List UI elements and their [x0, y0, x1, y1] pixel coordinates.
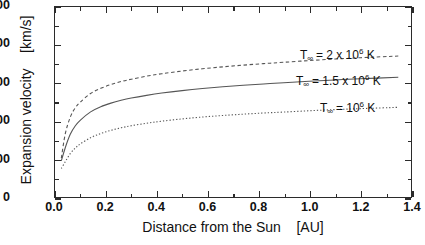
ann-mid-unit: K — [369, 74, 380, 88]
y-axis-title: Expansion velocity [km/s] — [18, 0, 34, 200]
x-minor-tick-top — [182, 7, 183, 11]
ann-bot-unit: K — [364, 101, 375, 115]
curve-t-1e6 — [61, 107, 398, 168]
y-major-tick-right — [405, 6, 411, 7]
x-major-tick — [259, 191, 260, 197]
x-minor-tick — [285, 194, 286, 198]
y-minor-tick — [55, 26, 59, 27]
x-minor-tick-top — [233, 7, 234, 11]
y-major-tick — [55, 45, 61, 46]
y-minor-tick — [55, 64, 59, 65]
y-major-tick — [55, 160, 61, 161]
annotation-t-1e6: T∞ = 106 K — [320, 100, 375, 116]
y-minor-tick — [55, 102, 59, 103]
y-major-tick-right — [405, 122, 411, 123]
x-tick-label: 0.6 — [184, 200, 230, 214]
y-minor-tick-right — [408, 141, 412, 142]
y-major-tick — [55, 122, 61, 123]
x-tick-label: 0.2 — [82, 200, 128, 214]
x-minor-tick — [80, 194, 81, 198]
y-tick-label: 1000 — [0, 0, 10, 12]
x-minor-tick — [233, 194, 234, 198]
y-tick-label: 600 — [0, 75, 10, 89]
ann-bot-mid: = 10 — [333, 101, 360, 115]
x-major-tick — [208, 191, 209, 197]
y-minor-tick — [55, 179, 59, 180]
x-minor-tick-top — [285, 7, 286, 11]
x-major-tick — [310, 191, 311, 197]
x-axis-title: Distance from the Sun [AU] — [54, 219, 412, 235]
x-minor-tick-top — [131, 7, 132, 11]
x-minor-tick — [182, 194, 183, 198]
annotation-t-2e6: T∞ = 2 x 106 K — [300, 47, 375, 63]
y-major-tick-right — [405, 160, 411, 161]
ann-mid-mid: = 1.5 x 10 — [309, 74, 365, 88]
x-tick-label: 0.4 — [133, 200, 179, 214]
ann-top-mid: = 2 x 10 — [313, 48, 359, 62]
x-tick-label: 0.8 — [236, 200, 282, 214]
y-major-tick — [55, 83, 61, 84]
y-tick-label: 200 — [0, 152, 10, 166]
y-tick-label: 400 — [0, 113, 10, 127]
y-tick-label: 0 — [0, 190, 10, 204]
x-tick-label: 1.0 — [287, 200, 333, 214]
x-minor-tick-top — [387, 7, 388, 11]
x-major-tick-top — [106, 7, 107, 13]
y-major-tick-right — [405, 83, 411, 84]
ann-top-unit: K — [363, 48, 374, 62]
x-major-tick-top — [157, 7, 158, 13]
x-major-tick — [412, 191, 413, 197]
x-major-tick — [106, 191, 107, 197]
x-minor-tick — [131, 194, 132, 198]
x-major-tick-top — [412, 7, 413, 13]
x-minor-tick — [387, 194, 388, 198]
x-tick-label: 1.4 — [389, 200, 425, 214]
y-minor-tick-right — [408, 26, 412, 27]
x-major-tick-top — [361, 7, 362, 13]
y-minor-tick — [55, 141, 59, 142]
x-major-tick — [54, 191, 55, 197]
y-minor-tick-right — [408, 102, 412, 103]
y-minor-tick-right — [408, 64, 412, 65]
x-minor-tick — [336, 194, 337, 198]
y-tick-label: 800 — [0, 36, 10, 50]
y-major-tick-right — [405, 45, 411, 46]
y-major-tick — [55, 6, 61, 7]
annotation-t-1p5e6: T∞ = 1.5 x 106 K — [296, 73, 381, 89]
x-major-tick-top — [259, 7, 260, 13]
x-minor-tick-top — [80, 7, 81, 11]
x-major-tick-top — [310, 7, 311, 13]
y-minor-tick-right — [408, 179, 412, 180]
curve-t-1p5e6 — [61, 77, 398, 161]
x-tick-label: 1.2 — [338, 200, 384, 214]
x-minor-tick-top — [336, 7, 337, 11]
expansion-velocity-chart: 0.00.20.40.60.81.01.21.4 020040060080010… — [0, 0, 425, 245]
x-major-tick — [361, 191, 362, 197]
x-major-tick-top — [208, 7, 209, 13]
x-major-tick — [157, 191, 158, 197]
x-major-tick-top — [54, 7, 55, 13]
x-tick-label: 0.0 — [31, 200, 77, 214]
